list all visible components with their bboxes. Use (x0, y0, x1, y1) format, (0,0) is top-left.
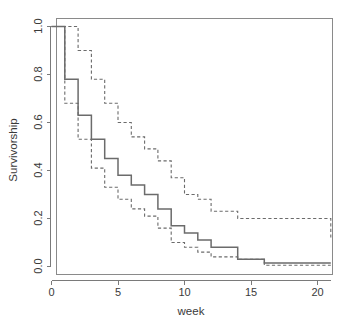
y-tick-label-0.2: 0.2 (32, 210, 44, 225)
y-tick-label-0.6: 0.6 (32, 114, 44, 129)
y-axis-title: Survivorship (7, 118, 19, 181)
y-tick-label-0.0: 0.0 (32, 258, 44, 273)
figure-background (0, 0, 351, 325)
survival-curve-figure: 1.0 0.8 0.6 0.4 0.2 0.0 0 5 10 15 20 wee… (0, 0, 351, 325)
y-tick-label-0.8: 0.8 (32, 66, 44, 81)
x-tick-label-0: 0 (48, 286, 54, 298)
x-tick-label-15: 15 (245, 286, 257, 298)
x-tick-label-20: 20 (311, 286, 323, 298)
x-axis-title: week (177, 305, 205, 317)
y-tick-label-0.4: 0.4 (32, 162, 44, 177)
plot-canvas: 1.0 0.8 0.6 0.4 0.2 0.0 0 5 10 15 20 wee… (0, 0, 351, 325)
x-tick-label-5: 5 (115, 286, 121, 298)
x-tick-label-10: 10 (178, 286, 190, 298)
y-tick-label-1.0: 1.0 (32, 18, 44, 33)
